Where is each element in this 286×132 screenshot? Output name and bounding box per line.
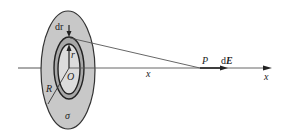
label-r: r [71,49,75,60]
label-dr: dr [55,21,64,32]
label-O: O [67,71,74,82]
label-R: R [45,83,52,94]
x-axis-arrowhead [263,66,272,71]
dE-arrowhead [220,66,228,71]
label-x-axis: x [263,71,269,82]
charged-disk-diagram: dr r O R σ x P dE x [0,0,286,132]
label-x-mid: x [145,68,151,79]
label-P: P [201,55,208,66]
label-dE-E: E [225,55,233,66]
label-dE: dE [221,55,233,66]
